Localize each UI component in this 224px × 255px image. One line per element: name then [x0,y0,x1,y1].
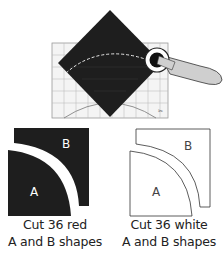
caption-red: Cut 36 red A and B shapes [0,216,110,250]
rotary-cutter-illustration: ✂ [0,0,224,128]
caption-red-line1: Cut 36 red [0,216,110,233]
white-piece-diagram: B A [126,128,216,218]
label-a-white: A [152,185,161,199]
caption-white-line1: Cut 36 white [114,216,224,233]
svg-text:✂: ✂ [158,107,163,114]
red-piece-diagram: B A [4,128,94,218]
caption-white: Cut 36 white A and B shapes [114,216,224,250]
label-a-red: A [30,185,39,199]
label-b-red: B [62,137,70,151]
caption-white-line2: A and B shapes [114,233,224,250]
label-b-white: B [184,139,192,153]
caption-red-line2: A and B shapes [0,233,110,250]
